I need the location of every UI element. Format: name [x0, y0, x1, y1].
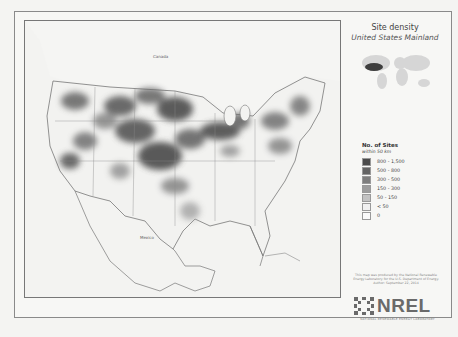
nrel-tagline: NATIONAL RENEWABLE ENERGY LABORATORY [350, 317, 445, 321]
legend-swatch [362, 203, 371, 211]
legend: 800 - 1,500 500 - 800 300 - 500 150 - 30… [362, 157, 405, 220]
nrel-logo: NREL [354, 295, 431, 317]
legend-panel: Site density United States Mainland No. … [340, 11, 450, 316]
legend-item: 800 - 1,500 [362, 157, 405, 166]
map-subtitle: United States Mainland [340, 33, 450, 42]
legend-swatch [362, 212, 371, 220]
legend-item: 50 - 150 [362, 193, 405, 202]
legend-swatch [362, 194, 371, 202]
world-locator-map-icon [358, 49, 434, 91]
legend-item: < 50 [362, 202, 405, 211]
label-mexico: Mexico [140, 235, 154, 240]
label-canada: Canada [153, 54, 168, 59]
map-credit: This map was produced by the National Re… [350, 273, 442, 285]
legend-swatch [362, 185, 371, 193]
map-title: Site density [340, 23, 450, 32]
legend-item: 300 - 500 [362, 175, 405, 184]
legend-swatch [362, 167, 371, 175]
us-map-graphic [25, 21, 340, 297]
legend-item: 150 - 300 [362, 184, 405, 193]
legend-item: 0 [362, 211, 405, 220]
site-density-map: Canada Mexico [24, 20, 341, 298]
nrel-dots-icon [354, 297, 374, 315]
legend-item: 500 - 800 [362, 166, 405, 175]
legend-swatch [362, 176, 371, 184]
nrel-wordmark: NREL [377, 295, 431, 317]
legend-swatch [362, 158, 371, 166]
legend-title: No. of Sites [362, 142, 398, 148]
legend-subtitle: within 50 km [362, 149, 391, 154]
